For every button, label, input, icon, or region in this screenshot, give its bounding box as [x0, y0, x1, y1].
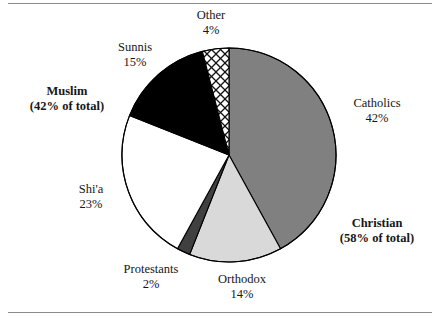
slice-label-orthodox-name: Orthodox — [198, 272, 286, 287]
slice-label-protestants-value: 2% — [104, 277, 198, 292]
slice-label-sunnis: Sunnis 15% — [92, 40, 178, 69]
slice-label-shia-name: Shi'a — [48, 182, 134, 197]
slice-label-shia: Shi'a 23% — [48, 182, 134, 211]
slice-label-catholics-value: 42% — [332, 111, 422, 126]
group-label-christian-value: (58% of total) — [316, 231, 438, 246]
pie-chart-figure: Other 4% Sunnis 15% Muslim (42% of total… — [0, 0, 440, 323]
slice-label-sunnis-name: Sunnis — [92, 40, 178, 55]
slice-label-orthodox: Orthodox 14% — [198, 272, 286, 301]
slice-label-protestants-name: Protestants — [104, 262, 198, 277]
slice-label-catholics-name: Catholics — [332, 96, 422, 111]
group-label-muslim-value: (42% of total) — [6, 99, 128, 114]
slice-label-orthodox-value: 14% — [198, 287, 286, 302]
slice-label-protestants: Protestants 2% — [104, 262, 198, 291]
pie-slice-group — [122, 48, 336, 262]
group-label-christian-name: Christian — [316, 216, 438, 231]
group-label-christian: Christian (58% of total) — [316, 216, 438, 245]
slice-label-sunnis-value: 15% — [92, 55, 178, 70]
slice-label-catholics: Catholics 42% — [332, 96, 422, 125]
slice-label-shia-value: 23% — [48, 197, 134, 212]
slice-label-other-name: Other — [168, 8, 254, 23]
group-label-muslim-name: Muslim — [6, 84, 128, 99]
slice-label-other-value: 4% — [168, 23, 254, 38]
slice-label-other: Other 4% — [168, 8, 254, 37]
group-label-muslim: Muslim (42% of total) — [6, 84, 128, 113]
